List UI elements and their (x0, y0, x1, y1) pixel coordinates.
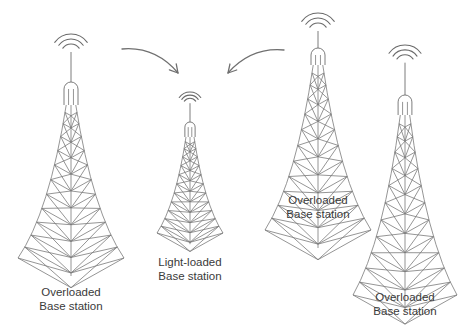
radio-waves-icon (179, 92, 200, 101)
arrow-right-to-middle-icon (228, 50, 284, 73)
tower-left-status-text: Overloaded (16, 285, 126, 299)
tower-center-right-type-text: Base station (263, 207, 373, 221)
tower-left-type-text: Base station (16, 299, 126, 313)
tower-middle-status-text: Light-loaded (135, 255, 245, 269)
tower-left-label: Overloaded Base station (16, 285, 126, 313)
radio-waves-icon (302, 13, 335, 27)
tower-right-status-text: Overloaded (350, 290, 460, 304)
arrow-left-to-middle-icon (122, 49, 178, 73)
radio-waves-icon (389, 45, 421, 59)
load-balancing-diagram: Overloaded Base station Light-loaded Bas… (0, 0, 472, 327)
tower-middle-type-text: Base station (135, 269, 245, 283)
tower-left-icon (18, 34, 124, 288)
tower-center-right-status-text: Overloaded (263, 193, 373, 207)
tower-center-right-label: Overloaded Base station (263, 193, 373, 221)
tower-middle-icon (157, 92, 223, 251)
tower-right-icon (353, 45, 457, 324)
tower-middle-label: Light-loaded Base station (135, 255, 245, 283)
tower-right-type-text: Base station (350, 304, 460, 318)
tower-right-label: Overloaded Base station (350, 290, 460, 318)
radio-waves-icon (55, 34, 88, 48)
